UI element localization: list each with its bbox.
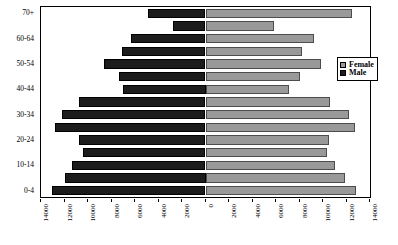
x-tick-label-L6000-4: 6000 bbox=[137, 204, 144, 218]
bar-row bbox=[41, 148, 370, 157]
x-tick-mark-R8000-4 bbox=[299, 199, 300, 202]
bar-male-0-4 bbox=[52, 186, 206, 195]
x-tick-label-L0-7: 0 bbox=[208, 204, 215, 208]
bar-row bbox=[41, 173, 370, 182]
x-tick-label-L12000-1: 12000 bbox=[67, 204, 74, 222]
y-tick-label-60-64: 60-64 bbox=[17, 35, 35, 43]
x-tick-label-R2000-1: 2000 bbox=[231, 204, 238, 218]
y-axis: 0-410-1420-2430-3440-4450-5460-6470+ bbox=[0, 6, 37, 198]
x-tick-label-L14000-0: 14000 bbox=[43, 204, 50, 222]
bar-male-65-69 bbox=[173, 21, 206, 30]
bar-row bbox=[41, 97, 370, 106]
x-tick-mark-R6000-3 bbox=[275, 199, 276, 202]
x-tick-label-L8000-3: 8000 bbox=[114, 204, 121, 218]
bar-male-5-9 bbox=[65, 173, 206, 182]
bar-row bbox=[41, 72, 370, 81]
bar-female-15-19 bbox=[206, 148, 327, 157]
y-tick-label-30-34: 30-34 bbox=[17, 111, 35, 119]
bar-female-30-34 bbox=[206, 110, 349, 119]
x-tick-mark-L2000-6 bbox=[181, 199, 182, 202]
bar-row bbox=[41, 186, 370, 195]
x-tick-label-R14000-7: 14000 bbox=[372, 204, 379, 222]
bar-male-70+ bbox=[148, 9, 206, 18]
bar-row bbox=[41, 59, 370, 68]
bar-male-10-14 bbox=[72, 161, 206, 170]
bar-row bbox=[41, 135, 370, 144]
bar-row bbox=[41, 21, 370, 30]
bar-female-35-39 bbox=[206, 97, 331, 106]
bar-row bbox=[41, 85, 370, 94]
bar-row bbox=[41, 34, 370, 43]
y-tick-label-0-4: 0-4 bbox=[24, 187, 34, 195]
x-tick-mark-R2000-1 bbox=[228, 199, 229, 202]
bar-female-55-59 bbox=[206, 47, 302, 56]
y-tick-label-10-14: 10-14 bbox=[17, 162, 35, 170]
x-tick-mark-L0-7 bbox=[205, 199, 206, 202]
x-tick-label-L10000-2: 10000 bbox=[90, 204, 97, 222]
x-axis: 1400012000100008000600040002000020004000… bbox=[40, 199, 371, 245]
bar-row bbox=[41, 110, 370, 119]
bar-female-70+ bbox=[206, 9, 353, 18]
bar-male-20-24 bbox=[79, 135, 206, 144]
x-tick-mark-L6000-4 bbox=[134, 199, 135, 202]
legend-item-male[interactable]: Male bbox=[340, 69, 374, 77]
x-tick-mark-L10000-2 bbox=[87, 199, 88, 202]
bar-male-60-64 bbox=[131, 34, 205, 43]
bar-male-40-44 bbox=[123, 85, 205, 94]
bar-male-50-54 bbox=[104, 59, 205, 68]
bar-female-50-54 bbox=[206, 59, 321, 68]
bars-layer bbox=[41, 7, 370, 197]
bar-female-65-69 bbox=[206, 21, 274, 30]
bar-female-45-49 bbox=[206, 72, 300, 81]
bar-row bbox=[41, 9, 370, 18]
female-swatch-icon bbox=[340, 62, 346, 68]
population-pyramid-chart: 0-410-1420-2430-3440-4450-5460-6470+ 140… bbox=[0, 0, 398, 245]
y-tick-label-50-54: 50-54 bbox=[17, 60, 35, 68]
x-tick-mark-R14000-7 bbox=[369, 199, 370, 202]
bar-male-35-39 bbox=[79, 97, 206, 106]
x-tick-mark-R10000-5 bbox=[322, 199, 323, 202]
y-tick-label-20-24: 20-24 bbox=[17, 136, 35, 144]
x-tick-mark-R12000-6 bbox=[346, 199, 347, 202]
bar-male-25-29 bbox=[55, 123, 205, 132]
bar-row bbox=[41, 47, 370, 56]
bar-row bbox=[41, 123, 370, 132]
x-tick-mark-L8000-3 bbox=[111, 199, 112, 202]
y-tick-label-70+: 70+ bbox=[22, 10, 34, 18]
bar-male-55-59 bbox=[122, 47, 205, 56]
x-tick-label-R10000-5: 10000 bbox=[325, 204, 332, 222]
x-tick-mark-L12000-1 bbox=[64, 199, 65, 202]
bar-male-15-19 bbox=[83, 148, 205, 157]
bar-female-60-64 bbox=[206, 34, 314, 43]
bar-female-0-4 bbox=[206, 186, 356, 195]
bar-row bbox=[41, 161, 370, 170]
y-tick-label-40-44: 40-44 bbox=[17, 86, 35, 94]
bar-female-20-24 bbox=[206, 135, 329, 144]
x-tick-mark-R4000-2 bbox=[252, 199, 253, 202]
bar-female-10-14 bbox=[206, 161, 335, 170]
x-tick-label-L2000-6: 2000 bbox=[184, 204, 191, 218]
x-tick-label-L4000-5: 4000 bbox=[161, 204, 168, 218]
plot-area bbox=[40, 6, 371, 198]
x-tick-mark-L14000-0 bbox=[40, 199, 41, 202]
x-tick-label-R4000-2: 4000 bbox=[255, 204, 262, 218]
x-tick-label-R12000-6: 12000 bbox=[349, 204, 356, 222]
x-tick-label-R6000-3: 6000 bbox=[278, 204, 285, 218]
bar-female-40-44 bbox=[206, 85, 289, 94]
bar-male-45-49 bbox=[119, 72, 206, 81]
legend-label-male: Male bbox=[349, 69, 366, 77]
male-swatch-icon bbox=[340, 70, 346, 76]
x-tick-mark-L4000-5 bbox=[158, 199, 159, 202]
x-tick-label-R8000-4: 8000 bbox=[302, 204, 309, 218]
bar-male-30-34 bbox=[62, 110, 205, 119]
chart-legend: FemaleMale bbox=[337, 57, 378, 81]
bar-female-25-29 bbox=[206, 123, 355, 132]
bar-female-5-9 bbox=[206, 173, 346, 182]
